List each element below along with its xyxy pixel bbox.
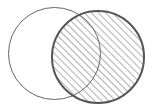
venn-diagram — [0, 0, 153, 106]
venn-svg — [0, 0, 153, 106]
